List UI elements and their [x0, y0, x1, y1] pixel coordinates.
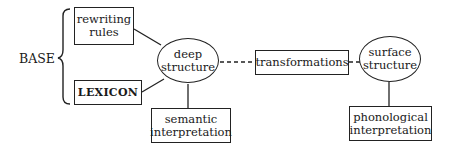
rewriting-rules-box: rewriting rules — [74, 7, 134, 45]
lexicon-box: LEXICON — [74, 80, 142, 105]
rewriting-rules-line2: rules — [89, 26, 118, 39]
transformations-box: transformations — [255, 50, 349, 75]
edge-rewriting-deep — [134, 29, 161, 45]
phonological-interpretation-line2: interpretation — [350, 124, 432, 137]
deep-structure-line2: structure — [161, 61, 215, 74]
phonological-interpretation-box: phonological interpretation — [349, 106, 432, 141]
semantic-interpretation-line2: interpretation — [150, 126, 232, 139]
base-label: BASE — [19, 51, 55, 66]
semantic-interpretation-line1: semantic — [165, 113, 218, 126]
deep-structure-line1: deep — [174, 48, 202, 61]
deep-structure-ellipse: deep structure — [157, 38, 219, 83]
transformations-label: transformations — [255, 56, 348, 69]
edge-lexicon-deep — [142, 79, 164, 92]
surface-structure-line2: structure — [363, 59, 417, 72]
lexicon-label: LEXICON — [78, 86, 138, 99]
base-brace — [58, 9, 70, 104]
surface-structure-ellipse: surface structure — [359, 36, 421, 82]
phonological-interpretation-line1: phonological — [353, 111, 428, 124]
semantic-interpretation-box: semantic interpretation — [151, 108, 231, 143]
